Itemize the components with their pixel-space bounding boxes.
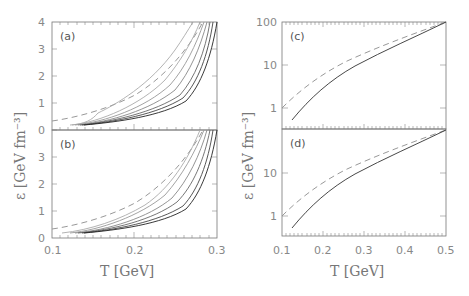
panel-c-x-ticks (286, 22, 442, 129)
panel-b: (b) 0 1 2 3 0.1 0.2 0.3 (38, 130, 226, 257)
panel-b-label: (b) (60, 138, 76, 151)
dark-curve-1 (78, 130, 210, 233)
x-tick-0.3: 0.3 (208, 244, 226, 257)
y-tick-1: 1 (270, 102, 277, 115)
y-tick-2: 2 (38, 70, 45, 83)
dashed-reference-curve (282, 130, 446, 216)
y-tick-4: 4 (38, 16, 45, 29)
y-tick-10: 10 (263, 59, 277, 72)
y-tick-1: 1 (38, 205, 45, 218)
y-tick-1: 1 (270, 210, 277, 223)
mid-curve-2 (78, 22, 207, 125)
panel-c-curves (282, 22, 446, 120)
x-tick-0.1: 0.1 (273, 244, 291, 257)
x-tick-0.2: 0.2 (314, 244, 332, 257)
panel-d: (d) 1 10 0.1 0.2 0.3 0.4 0.5 (263, 129, 455, 257)
right-y-axis-label: ε [GeV fm⁻³] (240, 112, 256, 200)
y-tick-100: 100 (256, 16, 277, 29)
left-y-axis-label: ε [GeV fm⁻³] (12, 112, 28, 200)
y-tick-10: 10 (263, 167, 277, 180)
solid-curve (292, 22, 446, 120)
y-tick-2: 2 (38, 178, 45, 191)
panel-d-label: (d) (290, 137, 306, 150)
mid-curve-2 (75, 130, 207, 233)
x-tick-0.5: 0.5 (437, 244, 455, 257)
panel-d-x-ticks (286, 231, 442, 236)
y-tick-1: 1 (38, 97, 45, 110)
panel-a: (a) 0 1 2 3 4 (38, 16, 217, 137)
x-tick-0.3: 0.3 (355, 244, 373, 257)
panel-d-y-ticks: 1 10 (263, 167, 446, 223)
x-tick-0.1: 0.1 (44, 244, 62, 257)
panel-a-x-ticks (60, 22, 209, 130)
panel-c-y-ticks: 1 10 100 (256, 16, 446, 115)
solid-curve (292, 130, 446, 228)
panel-a-label: (a) (60, 30, 75, 43)
dashed-reference-curve (282, 22, 446, 108)
y-tick-3: 3 (38, 151, 45, 164)
panel-c-frame (282, 22, 446, 129)
x-tick-0.2: 0.2 (126, 244, 144, 257)
mid-curve-1 (70, 130, 204, 233)
dark-curve-1 (80, 22, 210, 125)
panel-a-curves (52, 22, 217, 125)
panel-d-curves (282, 130, 446, 228)
left-x-axis-label: T [GeV] (100, 263, 154, 279)
x-tick-0.4: 0.4 (396, 244, 414, 257)
y-tick-3: 3 (38, 43, 45, 56)
left-x-tick-labels: 0.1 0.2 0.3 (44, 244, 226, 257)
figure: (a) 0 1 2 3 4 (0, 0, 469, 296)
light-curve-2 (72, 22, 200, 125)
y-tick-0: 0 (38, 124, 45, 137)
panel-c: (c) 1 10 100 (256, 16, 446, 129)
panel-d-frame (282, 129, 446, 236)
panel-b-y-ticks: 0 1 2 3 (38, 151, 217, 245)
panel-c-label: (c) (290, 30, 305, 43)
right-x-axis-label: T [GeV] (330, 263, 384, 279)
panel-b-curves (52, 130, 217, 233)
right-x-tick-labels: 0.1 0.2 0.3 0.4 0.5 (273, 244, 455, 257)
light-curve-1 (62, 130, 200, 233)
